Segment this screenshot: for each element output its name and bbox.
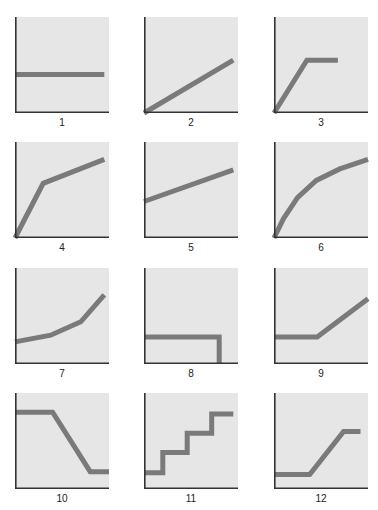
chart-panel-10 bbox=[15, 393, 109, 489]
panel-label: 6 bbox=[274, 242, 368, 253]
panel-label: 7 bbox=[15, 368, 109, 379]
chart-panel-4 bbox=[15, 142, 109, 238]
panel-label: 2 bbox=[144, 117, 238, 128]
plot-background bbox=[274, 268, 368, 364]
panel-label: 5 bbox=[144, 242, 238, 253]
chart-panel-12 bbox=[274, 393, 368, 489]
chart-panel-11 bbox=[144, 393, 238, 489]
plot-background bbox=[144, 268, 238, 364]
plot-background bbox=[15, 393, 109, 489]
panel-label: 9 bbox=[274, 368, 368, 379]
chart-panel-1 bbox=[15, 17, 109, 113]
chart-panel-7 bbox=[15, 268, 109, 364]
plot-background bbox=[15, 17, 109, 113]
panel-label: 4 bbox=[15, 242, 109, 253]
panel-label: 1 bbox=[15, 117, 109, 128]
panel-label: 3 bbox=[274, 117, 368, 128]
panel-label: 10 bbox=[15, 493, 109, 504]
panel-label: 11 bbox=[144, 493, 238, 504]
plot-background bbox=[15, 142, 109, 238]
chart-panel-5 bbox=[144, 142, 238, 238]
chart-panel-6 bbox=[274, 142, 368, 238]
chart-panel-8 bbox=[144, 268, 238, 364]
panel-label: 12 bbox=[274, 493, 368, 504]
plot-background bbox=[15, 268, 109, 364]
chart-panel-2 bbox=[144, 17, 238, 113]
plot-background bbox=[274, 142, 368, 238]
panel-label: 8 bbox=[144, 368, 238, 379]
chart-panel-9 bbox=[274, 268, 368, 364]
plot-background bbox=[274, 17, 368, 113]
plot-background bbox=[144, 142, 238, 238]
chart-panel-3 bbox=[274, 17, 368, 113]
